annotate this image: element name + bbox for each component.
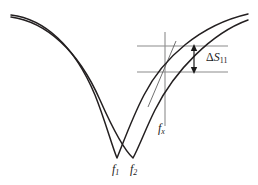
label-fx: fx: [158, 122, 165, 136]
label-delta-s11: ΔS11: [206, 51, 227, 65]
diagram-canvas: [0, 0, 258, 185]
resonance-curve-f2: [11, 17, 248, 158]
label-f2: f2: [130, 163, 137, 177]
label-f1: f1: [112, 163, 119, 177]
s11-notch-diagram: f1 f2 fx ΔS11: [0, 0, 258, 185]
resonance-curve-f1: [11, 14, 248, 158]
